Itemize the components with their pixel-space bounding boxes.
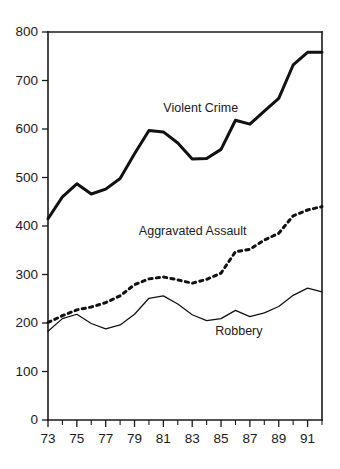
x-tick-label: 85 xyxy=(214,431,229,446)
y-tick-label: 600 xyxy=(15,121,38,136)
y-tick-label: 700 xyxy=(15,73,38,88)
chart-canvas: 0100200300400500600700800 73757779818385… xyxy=(0,0,340,469)
series-line-robbery xyxy=(48,288,322,331)
y-tick-label: 100 xyxy=(15,364,38,379)
y-tick-label: 400 xyxy=(15,218,38,233)
y-tick-label: 500 xyxy=(15,170,38,185)
x-tick-label: 77 xyxy=(98,431,113,446)
data-series-group xyxy=(48,52,322,331)
y-tick-label: 300 xyxy=(15,267,38,282)
y-axis-tick-labels: 0100200300400500600700800 xyxy=(15,24,38,427)
series-label-robbery: Robbery xyxy=(215,324,263,338)
x-axis-ticks xyxy=(48,420,322,427)
x-tick-label: 91 xyxy=(300,431,315,446)
x-tick-label: 87 xyxy=(242,431,257,446)
x-axis-tick-labels: 73757779818385878991 xyxy=(40,431,315,446)
x-tick-label: 79 xyxy=(127,431,142,446)
series-annotation-labels: Violent CrimeAggravated AssaultRobbery xyxy=(139,101,263,338)
x-tick-label: 83 xyxy=(185,431,200,446)
y-axis-group: 0100200300400500600700800 xyxy=(15,24,48,427)
y-tick-label: 0 xyxy=(30,412,38,427)
y-axis-ticks xyxy=(42,32,48,420)
y-tick-label: 200 xyxy=(15,315,38,330)
x-tick-label: 75 xyxy=(69,431,84,446)
x-tick-label: 81 xyxy=(156,431,171,446)
y-tick-label: 800 xyxy=(15,24,38,39)
series-line-violent-crime xyxy=(48,52,322,218)
series-label-violent-crime: Violent Crime xyxy=(163,101,238,115)
x-tick-label: 89 xyxy=(271,431,286,446)
series-label-aggravated-assault: Aggravated Assault xyxy=(139,224,247,238)
crime-statistics-line-chart: 0100200300400500600700800 73757779818385… xyxy=(0,0,340,469)
x-tick-label: 73 xyxy=(40,431,55,446)
